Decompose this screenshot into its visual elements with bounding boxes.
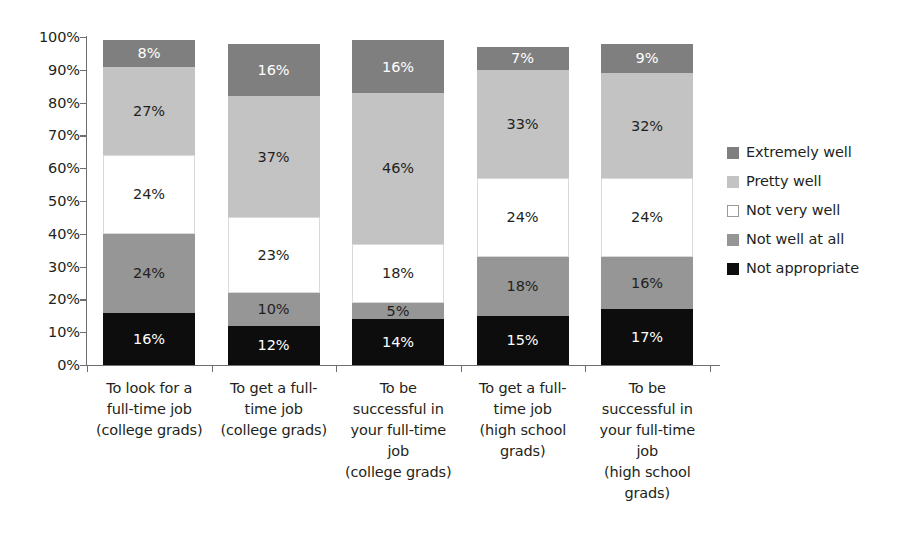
bar-segment[interactable]: 24%	[103, 155, 195, 234]
bar-segment-value-label: 8%	[138, 46, 161, 60]
legend-swatch-icon	[727, 263, 739, 275]
bar-segment-value-label: 33%	[507, 117, 539, 131]
bar-segment[interactable]: 32%	[601, 73, 693, 178]
bar-segment-value-label: 14%	[382, 335, 414, 349]
bar-segment-value-label: 24%	[133, 266, 165, 280]
bar-segment[interactable]: 5%	[352, 303, 444, 319]
bar-segment[interactable]: 23%	[228, 217, 320, 292]
bar-segment[interactable]: 24%	[103, 234, 195, 313]
y-axis-tick-label: 50%	[18, 194, 80, 208]
bar-segment-value-label: 18%	[382, 266, 414, 280]
legend-item[interactable]: Extremely well	[727, 138, 897, 167]
category-label-line: To look for a	[87, 378, 211, 399]
bar-segment-value-label: 5%	[387, 304, 410, 318]
x-axis-tick-mark	[710, 366, 711, 372]
bar-stack[interactable]: 8%27%24%24%16%	[103, 40, 195, 365]
bar-segment[interactable]: 16%	[103, 313, 195, 365]
y-axis-tick-label: 40%	[18, 227, 80, 241]
bar-segment-value-label: 16%	[382, 60, 414, 74]
bar-segment[interactable]: 18%	[477, 257, 569, 316]
y-axis-tick-mark	[80, 234, 86, 235]
bar-segment[interactable]: 46%	[352, 93, 444, 244]
bar-segment[interactable]: 16%	[228, 44, 320, 96]
bar-segment[interactable]: 7%	[477, 47, 569, 70]
bar-group: 8%27%24%24%16%	[103, 37, 195, 365]
bar-segment-value-label: 7%	[511, 51, 534, 65]
category-label-line: grads)	[585, 483, 709, 504]
bar-stack[interactable]: 16%46%18%5%14%	[352, 40, 444, 365]
bar-segment[interactable]: 8%	[103, 40, 195, 66]
bar-segment-value-label: 15%	[507, 333, 539, 347]
bar-segment-value-label: 24%	[133, 187, 165, 201]
bar-segment[interactable]: 16%	[352, 40, 444, 92]
bar-segment-value-label: 16%	[258, 63, 290, 77]
bar-segment-value-label: 46%	[382, 161, 414, 175]
legend-item[interactable]: Not very well	[727, 196, 897, 225]
category-label-line: your full-time	[585, 420, 709, 441]
bar-stack[interactable]: 16%37%23%10%12%	[228, 44, 320, 365]
x-axis-tick-mark	[212, 366, 213, 372]
bar-stack[interactable]: 7%33%24%18%15%	[477, 47, 569, 365]
y-axis-tick-mark	[80, 299, 86, 300]
category-label-line: successful in	[336, 399, 460, 420]
bar-segment-value-label: 24%	[631, 210, 663, 224]
bar-segment-value-label: 23%	[258, 248, 290, 262]
legend-swatch-icon	[727, 234, 739, 246]
x-axis-tick-mark	[87, 366, 88, 372]
bar-segment[interactable]: 33%	[477, 70, 569, 178]
bar-segment[interactable]: 15%	[477, 316, 569, 365]
bar-segment-value-label: 16%	[631, 276, 663, 290]
legend-item[interactable]: Not appropriate	[727, 254, 897, 283]
category-label-line: To get a full-	[461, 378, 585, 399]
legend-label: Extremely well	[746, 145, 852, 160]
x-axis-category-label: To get a full-time job(high schoolgrads)	[461, 378, 585, 462]
bar-segment[interactable]: 12%	[228, 326, 320, 365]
bar-segment[interactable]: 16%	[601, 257, 693, 309]
bar-stack[interactable]: 9%32%24%16%17%	[601, 44, 693, 365]
x-axis-tick-mark	[461, 366, 462, 372]
y-axis-tick-label: 90%	[18, 63, 80, 77]
x-axis-category-label: To besuccessful inyour full-timejob(high…	[585, 378, 709, 504]
stacked-bar-chart: 0%10%20%30%40%50%60%70%80%90%100% 8%27%2…	[0, 0, 904, 547]
category-label-line: (college grads)	[212, 420, 336, 441]
category-label-line: (high school	[461, 420, 585, 441]
legend-item[interactable]: Pretty well	[727, 167, 897, 196]
category-label-line: To get a full-	[212, 378, 336, 399]
category-label-line: (college grads)	[87, 420, 211, 441]
y-axis-tick-label: 20%	[18, 292, 80, 306]
legend-label: Not well at all	[746, 232, 844, 247]
x-axis-line	[86, 365, 720, 366]
y-axis-tick-mark	[80, 168, 86, 169]
bar-segment[interactable]: 24%	[477, 178, 569, 257]
legend-swatch-icon	[727, 205, 739, 217]
bar-segment[interactable]: 17%	[601, 309, 693, 365]
legend-label: Not very well	[746, 203, 840, 218]
y-axis-tick-mark	[80, 37, 86, 38]
y-axis-tick-label: 30%	[18, 260, 80, 274]
bar-segment[interactable]: 14%	[352, 319, 444, 365]
legend-item[interactable]: Not well at all	[727, 225, 897, 254]
category-label-line: successful in	[585, 399, 709, 420]
bar-segment[interactable]: 27%	[103, 67, 195, 156]
bar-segment-value-label: 9%	[636, 51, 659, 65]
bar-segment-value-label: 10%	[258, 302, 290, 316]
bar-segment[interactable]: 37%	[228, 96, 320, 217]
bar-group: 16%46%18%5%14%	[352, 37, 444, 365]
bar-group: 7%33%24%18%15%	[477, 37, 569, 365]
y-axis-tick-mark	[80, 70, 86, 71]
y-axis-tick-mark	[80, 103, 86, 104]
bar-segment[interactable]: 24%	[601, 178, 693, 257]
legend-label: Not appropriate	[746, 261, 859, 276]
bar-segment[interactable]: 9%	[601, 44, 693, 74]
x-axis-category-label: To look for afull-time job(college grads…	[87, 378, 211, 441]
y-axis-tick-label: 10%	[18, 325, 80, 339]
y-axis-tick-mark	[80, 365, 86, 366]
bar-segment[interactable]: 10%	[228, 293, 320, 326]
x-axis-tick-mark	[336, 366, 337, 372]
category-label-line: your full-time	[336, 420, 460, 441]
bar-segment[interactable]: 18%	[352, 244, 444, 303]
bar-segment-value-label: 24%	[507, 210, 539, 224]
y-axis-tick-label: 0%	[18, 358, 80, 372]
y-axis-tick-mark	[80, 201, 86, 202]
legend-label: Pretty well	[746, 174, 821, 189]
